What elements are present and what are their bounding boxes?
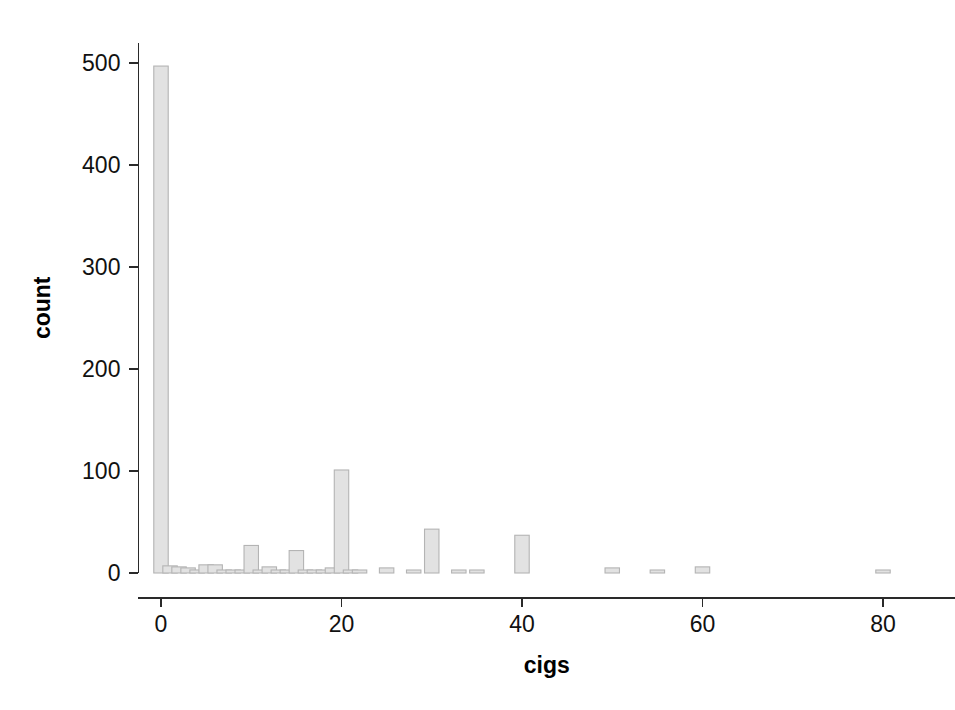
bar — [515, 535, 529, 573]
bar — [452, 570, 466, 573]
x-tick-label: 0 — [155, 611, 168, 637]
x-axis-title: cigs — [524, 652, 570, 678]
x-tick-label: 40 — [509, 611, 535, 637]
bar — [470, 570, 484, 573]
y-tick-label: 0 — [108, 560, 121, 586]
x-tick-label: 20 — [329, 611, 355, 637]
bar — [352, 570, 366, 573]
y-tick-label: 400 — [82, 152, 120, 178]
bar — [334, 470, 348, 573]
bar — [425, 529, 439, 573]
x-tick-label: 60 — [690, 611, 716, 637]
y-axis-title: count — [29, 276, 55, 339]
bar — [605, 568, 619, 573]
bar — [695, 567, 709, 573]
bar — [244, 545, 258, 573]
bar — [154, 66, 168, 573]
bars-group — [154, 66, 890, 573]
bar — [876, 570, 890, 573]
y-tick-label: 100 — [82, 458, 120, 484]
y-tick-label: 500 — [82, 50, 120, 76]
y-tick-label: 200 — [82, 356, 120, 382]
x-tick-label: 80 — [870, 611, 896, 637]
bar — [406, 570, 420, 573]
histogram-chart: 0100200300400500 020406080 cigs count — [0, 0, 955, 710]
bar — [650, 570, 664, 573]
y-axis-ticks: 0100200300400500 — [82, 50, 138, 586]
bar — [379, 568, 393, 573]
chart-canvas: 0100200300400500 020406080 cigs count — [0, 0, 955, 710]
y-tick-label: 300 — [82, 254, 120, 280]
axes-group — [138, 43, 955, 598]
x-axis-ticks: 020406080 — [155, 598, 896, 637]
